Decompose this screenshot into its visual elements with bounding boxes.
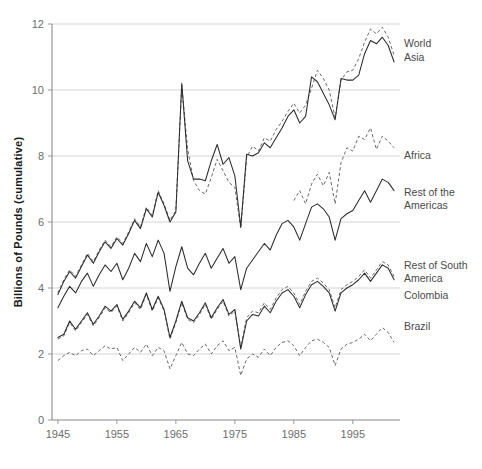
chart-container: 024681012 194519551965197519851995 Billi… [0,0,482,469]
x-tick-label-1965: 1965 [164,428,188,440]
series-label-colombia: Colombia [404,289,449,301]
label-brazil-text: Brazil [404,320,430,332]
label-rest-south-america-line1: Rest of South [404,259,468,271]
y-tick-label-8: 8 [38,150,44,162]
y-tick-label-4: 4 [38,282,44,294]
series-label-world: World [404,37,431,49]
series-label-brazil: Brazil [404,320,430,332]
label-rest-americas-line2: Americas [404,199,448,211]
y-tick-label-10: 10 [32,84,44,96]
x-tick-label-1945: 1945 [46,428,70,440]
y-tick-label-6: 6 [38,216,44,228]
y-tick-label-12: 12 [32,18,44,30]
label-rest-south-america-line2: America [404,272,443,284]
series-label-africa: Africa [404,149,431,161]
x-tick-label-1975: 1975 [223,428,247,440]
label-world-text: World [404,37,431,49]
label-colombia-text: Colombia [404,289,449,301]
line-chart: 024681012 194519551965197519851995 Billi… [0,0,482,469]
label-asia-text: Asia [404,51,425,63]
y-tick-label-2: 2 [38,348,44,360]
series-label-asia: Asia [404,51,425,63]
x-tick-label-1985: 1985 [282,428,306,440]
x-tick-label-1995: 1995 [341,428,365,440]
y-tick-label-0: 0 [38,414,44,426]
y-axis-title: Billions of Pounds (cumulative) [12,137,24,308]
label-rest-americas-line1: Rest of the [404,186,455,198]
chart-background [0,0,482,469]
label-africa-text: Africa [404,149,431,161]
series-label-rest-of-the-americas: Rest of the Americas [404,186,455,211]
x-tick-label-1955: 1955 [105,428,129,440]
